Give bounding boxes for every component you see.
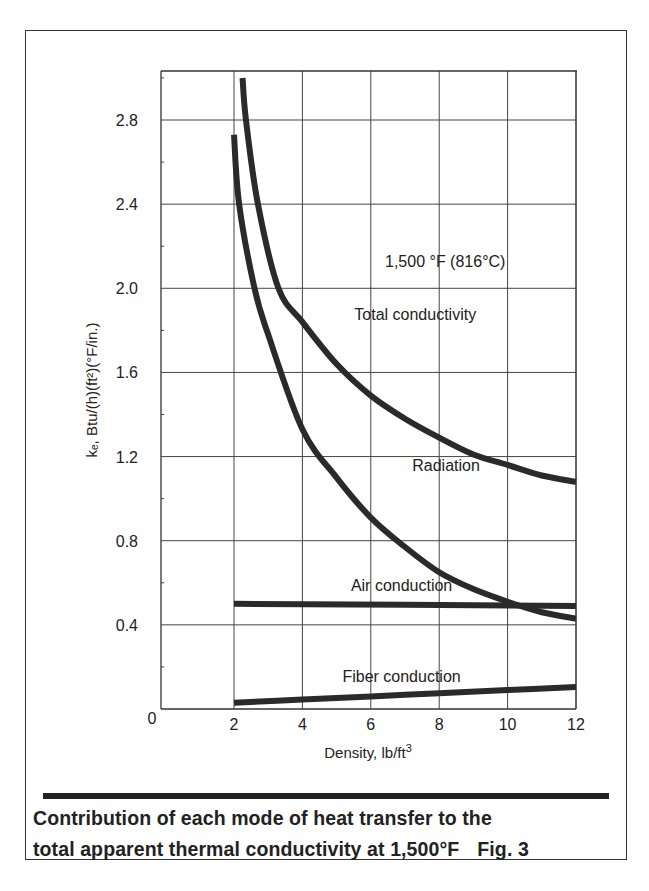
curve-fiber-conduction [234, 687, 576, 703]
chart: 00.40.81.21.62.02.42.824681012 Total con… [0, 0, 649, 891]
x-tick-label: 10 [499, 716, 517, 733]
curve-total-conductivity [243, 78, 576, 482]
y-tick-label: 2.0 [116, 280, 138, 297]
x-tick-label: 12 [567, 716, 585, 733]
y-tick-label: 0.4 [116, 617, 138, 634]
figure-number: Fig. 3 [477, 834, 529, 865]
y-axis-label: kₑ, Btu/(h)(ft²)(°F/in.) [83, 323, 100, 458]
caption-line-2: total apparent thermal conductivity at 1… [33, 834, 459, 865]
y-tick-label: 2.8 [116, 112, 138, 129]
caption-rule [43, 793, 609, 799]
series-label: Total conductivity [354, 306, 476, 323]
y-tick-label: 1.6 [116, 364, 138, 381]
temperature-annotation: 1,500 °F (816°C) [385, 253, 505, 270]
y-tick-label: 0 [148, 710, 157, 727]
series-labels: Total conductivityRadiationAir conductio… [342, 306, 479, 685]
tick-labels: 00.40.81.21.62.02.42.824681012 [116, 112, 585, 733]
curve-radiation [234, 135, 576, 619]
series-label: Fiber conduction [342, 668, 460, 685]
figure-caption: Contribution of each mode of heat transf… [33, 803, 633, 865]
y-tick-label: 0.8 [116, 533, 138, 550]
data-curves [234, 78, 576, 703]
caption-line-1: Contribution of each mode of heat transf… [33, 803, 633, 834]
x-tick-label: 4 [298, 716, 307, 733]
x-tick-label: 2 [230, 716, 239, 733]
axes [161, 71, 577, 709]
x-tick-label: 8 [435, 716, 444, 733]
series-label: Air conduction [351, 577, 452, 594]
x-tick-label: 6 [366, 716, 375, 733]
curve-air-conduction [234, 604, 576, 606]
y-tick-label: 1.2 [116, 449, 138, 466]
x-axis-label: Density, lb/ft3 [324, 742, 412, 761]
series-label: Radiation [412, 457, 480, 474]
y-tick-label: 2.4 [116, 196, 138, 213]
